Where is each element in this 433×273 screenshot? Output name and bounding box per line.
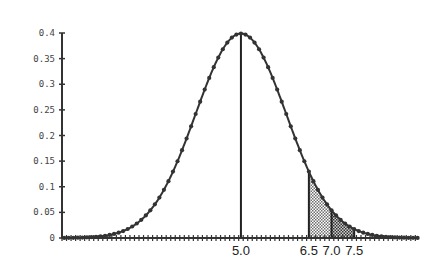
data-point-marker: [239, 31, 243, 35]
data-point-marker: [203, 87, 207, 91]
data-point-marker: [334, 213, 338, 217]
data-point-marker: [121, 229, 125, 233]
data-point-marker: [338, 218, 342, 222]
data-point-marker: [266, 65, 270, 69]
data-point-marker: [126, 227, 130, 231]
data-point-marker: [117, 231, 121, 235]
y-tick-label: 0.1: [39, 182, 55, 192]
y-tick-label: 0.05: [33, 207, 55, 217]
vertical-reference-lines: [241, 34, 354, 238]
data-point-marker: [135, 221, 139, 225]
data-point-marker: [343, 221, 347, 225]
data-point-marker: [307, 170, 311, 174]
y-tick-label: 0.2: [39, 131, 55, 141]
x-tick-label: 6.5: [300, 243, 318, 258]
data-point-marker: [107, 233, 111, 237]
data-point-marker: [271, 76, 275, 80]
data-point-marker: [284, 112, 288, 116]
data-point-marker: [162, 188, 166, 192]
data-point-marker: [157, 195, 161, 199]
data-point-marker: [234, 32, 238, 36]
y-tick-label: 0.3: [39, 79, 55, 89]
data-point-marker: [221, 47, 225, 51]
y-axis-tick-labels: 00.050.10.150.20.250.30.350.4: [33, 28, 55, 243]
y-tick-label: 0: [50, 233, 55, 243]
data-point-marker: [207, 76, 211, 80]
axes: [59, 33, 418, 241]
curve-line: [62, 34, 417, 238]
normal-distribution-chart: 00.050.10.150.20.250.30.350.4 5.06.57.07…: [0, 0, 433, 273]
data-point-marker: [370, 233, 374, 237]
x-tick-label: 5.0: [232, 243, 250, 258]
data-point-marker: [361, 231, 365, 235]
data-point-marker: [130, 224, 134, 228]
data-point-marker: [212, 65, 216, 69]
data-point-marker: [352, 227, 356, 231]
data-point-marker: [257, 47, 261, 51]
data-point-marker: [280, 100, 284, 104]
y-tick-label: 0.15: [33, 156, 55, 166]
data-point-marker: [112, 232, 116, 236]
y-tick-label: 0.25: [33, 105, 55, 115]
data-point-marker: [329, 208, 333, 212]
data-point-marker: [243, 32, 247, 36]
data-point-marker: [194, 112, 198, 116]
data-point-marker: [139, 218, 143, 222]
data-point-marker: [316, 188, 320, 192]
data-point-marker: [348, 224, 352, 228]
data-point-marker: [189, 124, 193, 128]
data-point-marker: [216, 55, 220, 59]
data-point-marker: [180, 148, 184, 152]
data-point-marker: [230, 35, 234, 39]
data-point-marker: [252, 40, 256, 44]
data-point-marker: [302, 159, 306, 163]
data-point-marker: [148, 208, 152, 212]
x-tick-label: 7.0: [322, 243, 340, 258]
x-axis-tick-labels: 5.06.57.07.5: [232, 243, 363, 258]
data-point-marker: [357, 229, 361, 233]
data-point-marker: [184, 136, 188, 140]
data-point-marker: [325, 202, 329, 206]
data-point-marker: [166, 179, 170, 183]
data-point-marker: [311, 179, 315, 183]
data-point-marker: [198, 100, 202, 104]
data-point-marker: [298, 148, 302, 152]
data-point-marker: [171, 170, 175, 174]
data-point-marker: [248, 35, 252, 39]
data-point-marker: [144, 213, 148, 217]
y-tick-label: 0.35: [33, 54, 55, 64]
data-point-marker: [275, 87, 279, 91]
data-point-marker: [153, 202, 157, 206]
x-tick-label: 7.5: [345, 243, 363, 258]
data-point-marker: [225, 40, 229, 44]
data-point-marker: [320, 195, 324, 199]
data-point-marker: [293, 136, 297, 140]
data-point-marker: [261, 55, 265, 59]
data-point-marker: [175, 159, 179, 163]
data-point-marker: [366, 232, 370, 236]
data-point-marker: [289, 124, 293, 128]
y-tick-label: 0.4: [39, 28, 55, 38]
